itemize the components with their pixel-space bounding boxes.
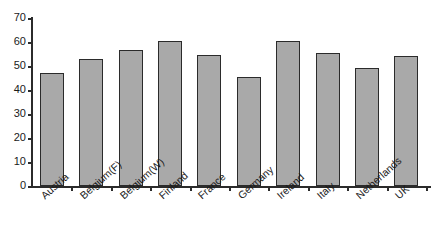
bar: [79, 59, 103, 186]
x-axis-tick-mark: [268, 187, 270, 191]
y-axis-tick-mark: [28, 42, 32, 44]
bar: [276, 41, 300, 186]
x-axis-tick-mark: [308, 187, 310, 191]
y-axis-tick-label: 30: [0, 108, 26, 119]
bar: [355, 68, 379, 186]
x-axis-tick-mark: [426, 187, 428, 191]
bar: [197, 55, 221, 186]
y-axis-tick-label: 40: [0, 84, 26, 95]
y-axis-tick-label: 10: [0, 156, 26, 167]
bar: [237, 77, 261, 186]
y-axis-tick-label: 70: [0, 12, 26, 23]
y-axis-tick-mark: [28, 114, 32, 116]
y-axis-tick-mark: [28, 66, 32, 68]
x-axis-tick-mark: [229, 187, 231, 191]
y-axis-tick-label: 0: [0, 180, 26, 191]
x-axis-tick-mark: [111, 187, 113, 191]
x-axis-tick-mark: [387, 187, 389, 191]
y-axis-tick-mark: [28, 18, 32, 20]
bar: [316, 53, 340, 186]
x-axis-tick-mark: [190, 187, 192, 191]
bar-chart: 010203040506070 AustriaBelgium(F)Belgium…: [0, 0, 447, 249]
x-axis-tick-mark: [347, 187, 349, 191]
y-axis-tick-label: 20: [0, 132, 26, 143]
x-axis-tick-mark: [150, 187, 152, 191]
y-axis-tick-label: 50: [0, 60, 26, 71]
y-axis-tick-label: 60: [0, 36, 26, 47]
y-axis-tick-mark: [28, 162, 32, 164]
y-axis-tick-mark: [28, 186, 32, 188]
y-axis-tick-mark: [28, 90, 32, 92]
bar: [40, 73, 64, 186]
y-axis-tick-mark: [28, 138, 32, 140]
x-axis-tick-mark: [71, 187, 73, 191]
